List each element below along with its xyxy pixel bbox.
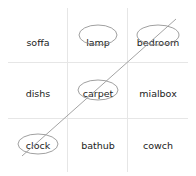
annotation-overlay bbox=[0, 0, 196, 176]
circle-mark bbox=[78, 80, 118, 100]
circle-mark bbox=[79, 25, 117, 45]
strike-line bbox=[22, 19, 176, 156]
circle-mark bbox=[18, 134, 58, 154]
